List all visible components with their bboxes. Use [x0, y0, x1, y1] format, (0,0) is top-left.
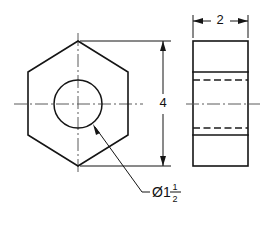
engineering-drawing: 4 2 Ø 1 1 2 — [0, 0, 267, 225]
width-dim-arrow-right — [238, 18, 248, 24]
height-dim-arrow-top — [160, 41, 166, 51]
hole-diameter-fraction-denominator: 2 — [172, 194, 177, 204]
hole-diameter-whole-number: 1 — [163, 184, 171, 200]
hole-diameter-fraction-numerator: 1 — [172, 182, 177, 192]
height-dim-arrow-bottom — [160, 156, 166, 166]
hole-diameter-symbol: Ø — [152, 184, 163, 200]
hole-leader-arrowhead — [93, 124, 100, 135]
hole-leader-line — [95, 127, 142, 192]
width-dim-arrow-left — [193, 18, 203, 24]
drawing-canvas: 4 2 Ø 1 1 2 — [0, 0, 267, 225]
height-dimension-value: 4 — [159, 95, 166, 110]
width-dimension-value: 2 — [216, 12, 223, 27]
